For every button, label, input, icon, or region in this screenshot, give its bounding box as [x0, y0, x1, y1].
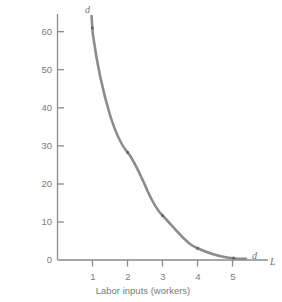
x-tick-label-3: 3 [153, 271, 173, 282]
curve-label-d-right: d [252, 250, 257, 261]
data-point-4 [196, 247, 199, 250]
data-point-5 [232, 257, 235, 260]
y-tick-label-40: 40 [28, 102, 52, 113]
y-tick-label-0: 0 [28, 254, 52, 265]
data-point-markers [91, 27, 235, 260]
x-axis-variable-label: L [270, 256, 276, 267]
chart-figure: 60 50 40 30 20 10 0 1 2 3 4 5 Marginal r… [0, 0, 282, 302]
x-tick-label-2: 2 [118, 271, 138, 282]
data-point-1 [91, 27, 94, 30]
y-tick-label-50: 50 [28, 64, 52, 75]
y-tick-label-30: 30 [28, 140, 52, 151]
x-axis-label: Labor inputs (workers) [48, 285, 238, 296]
x-tick-label-4: 4 [188, 271, 208, 282]
data-point-2 [126, 151, 129, 154]
x-axis-ticks [93, 260, 233, 267]
demand-curve-path [92, 16, 246, 259]
curve-label-d-top: d [85, 4, 90, 15]
y-tick-label-60: 60 [28, 26, 52, 37]
x-tick-label-1: 1 [83, 271, 103, 282]
data-point-3 [161, 214, 164, 217]
y-tick-label-10: 10 [28, 216, 52, 227]
y-tick-label-20: 20 [28, 178, 52, 189]
x-tick-label-5: 5 [223, 271, 243, 282]
y-axis-ticks [58, 32, 65, 222]
